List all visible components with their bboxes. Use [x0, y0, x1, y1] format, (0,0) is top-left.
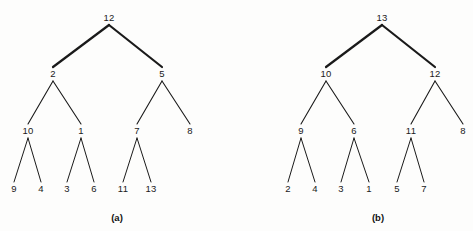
tree-edge [123, 138, 137, 182]
tree-edge [411, 81, 435, 124]
tree-edge [301, 138, 315, 182]
tree-node-1: 1 [78, 126, 83, 136]
tree-node-12: 12 [430, 69, 441, 79]
tree-edge [435, 81, 463, 124]
panel-caption-b: (b) [372, 212, 384, 223]
tree-edge [354, 138, 369, 182]
tree-edge [341, 138, 354, 182]
tree-edge [382, 25, 435, 67]
tree-edge [301, 81, 326, 124]
tree-node-9: 9 [11, 184, 16, 194]
tree-node-6: 6 [351, 126, 356, 136]
binary-tree-figure: 12251017894361113(a)13101296118243157(b) [0, 0, 473, 231]
tree-node-7: 7 [421, 184, 426, 194]
tree-edge [28, 138, 41, 182]
tree-edge [137, 81, 162, 124]
tree-node-4: 4 [38, 184, 43, 194]
tree-node-3: 3 [64, 184, 69, 194]
tree-edge [14, 138, 28, 182]
tree-edge [137, 138, 151, 182]
tree-node-2: 2 [285, 184, 290, 194]
tree-node-10: 10 [23, 126, 34, 136]
tree-node-2: 2 [50, 69, 55, 79]
tree-node-5: 5 [394, 184, 399, 194]
tree-edge [397, 138, 411, 182]
tree-node-4: 4 [312, 184, 317, 194]
tree-edge [162, 81, 190, 124]
tree-node-5: 5 [159, 69, 164, 79]
tree-edge [326, 81, 354, 124]
tree-node-3: 3 [338, 184, 343, 194]
tree-node-9: 9 [298, 126, 303, 136]
tree-node-7: 7 [134, 126, 139, 136]
tree-edge [109, 25, 162, 67]
panel-caption-a: (a) [111, 212, 123, 223]
tree-node-11: 11 [406, 126, 416, 136]
tree-node-13: 13 [146, 184, 157, 194]
tree-node-12: 12 [104, 13, 115, 23]
tree-node-1: 1 [366, 184, 371, 194]
tree-node-8: 8 [460, 126, 465, 136]
tree-node-11: 11 [118, 184, 128, 194]
tree-node-10: 10 [321, 69, 332, 79]
tree-node-6: 6 [91, 184, 96, 194]
tree-edge [67, 138, 81, 182]
tree-edge [288, 138, 301, 182]
tree-edge [53, 25, 109, 67]
tree-edge [53, 81, 81, 124]
tree-edge [411, 138, 424, 182]
tree-node-13: 13 [377, 13, 388, 23]
tree-edges-layer [0, 0, 473, 231]
tree-node-8: 8 [187, 126, 192, 136]
tree-edge [81, 138, 94, 182]
tree-edge [326, 25, 382, 67]
tree-edge [28, 81, 53, 124]
